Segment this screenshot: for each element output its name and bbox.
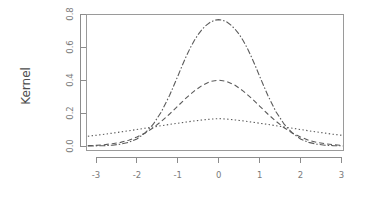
y-tick-label: 0.4 bbox=[65, 73, 75, 87]
y-tick-label: 0.2 bbox=[65, 106, 75, 120]
plot-canvas: Kernel 0.00.20.40.60.8 -3-2-10123 bbox=[0, 0, 365, 199]
x-tick-label: 3 bbox=[339, 170, 344, 180]
y-tick-label: 0.6 bbox=[65, 40, 75, 54]
figure-background bbox=[0, 0, 365, 199]
y-tick-label: 0.8 bbox=[65, 7, 75, 21]
y-tick-label: 0.0 bbox=[65, 139, 75, 153]
x-tick-label: 1 bbox=[257, 170, 262, 180]
kernel-density-plot-figure: Kernel 0.00.20.40.60.8 -3-2-10123 bbox=[0, 0, 365, 199]
x-tick-label: 0 bbox=[216, 170, 221, 180]
x-tick-label: -1 bbox=[174, 170, 182, 180]
y-axis-title: Kernel bbox=[19, 67, 33, 105]
x-tick-label: 2 bbox=[298, 170, 303, 180]
x-tick-label: -2 bbox=[133, 170, 141, 180]
x-tick-label: -3 bbox=[92, 170, 100, 180]
